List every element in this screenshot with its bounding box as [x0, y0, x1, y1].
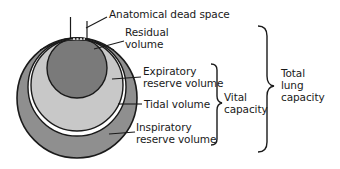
label-vital-2: capacity — [224, 104, 268, 115]
label-total-3: capacity — [281, 92, 325, 103]
label-residual-2: volume — [125, 39, 163, 50]
label-irv-2: reserve volume — [136, 134, 216, 145]
label-total-2: lung — [281, 80, 304, 91]
label-erv-2: reserve volume — [143, 78, 223, 89]
label-tidal-volume: Tidal volume — [144, 99, 210, 110]
label-vital-1: Vital — [224, 92, 247, 103]
label-anatomical-dead-space: Anatomical dead space — [109, 9, 230, 20]
label-total-1: Total — [281, 68, 305, 79]
residual-volume-circle — [47, 38, 107, 98]
dead-space-leader — [86, 17, 107, 28]
label-residual-1: Residual — [125, 27, 169, 38]
label-irv-1: Inspiratory — [136, 122, 192, 133]
total-lung-capacity-brace — [258, 26, 274, 152]
label-erv-1: Expiratory — [143, 66, 196, 77]
